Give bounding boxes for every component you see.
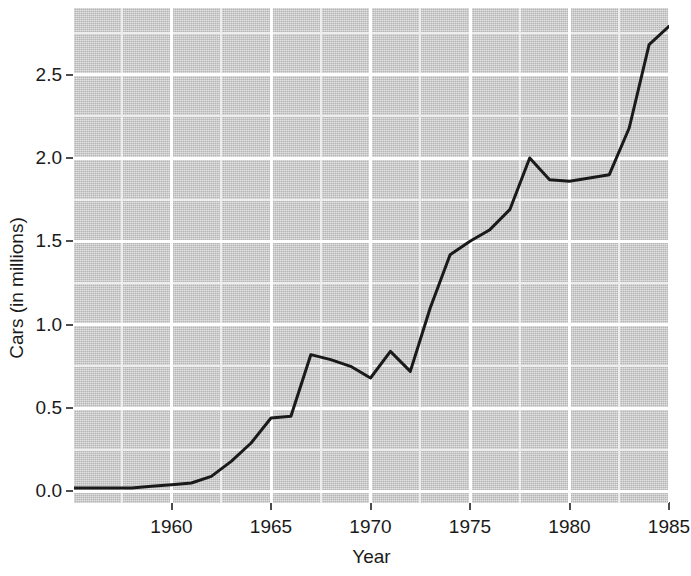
- y-axis-tick-mark: [66, 157, 73, 159]
- x-axis-tick-label: 1985: [648, 516, 690, 538]
- x-axis-tick-mark: [270, 502, 272, 510]
- y-axis-tick-mark: [66, 407, 73, 409]
- x-axis-tick-label: 1965: [250, 516, 292, 538]
- x-axis-tick-mark: [569, 502, 571, 510]
- y-axis-tick-mark: [66, 240, 73, 242]
- y-axis-tick-label: 1.0: [4, 314, 62, 336]
- y-axis-tick-label: 2.5: [4, 64, 62, 86]
- x-axis-tick-label: 1980: [548, 516, 590, 538]
- plot-panel: [74, 8, 669, 503]
- y-axis-tick-mark: [66, 490, 73, 492]
- y-axis-tick-labels: 0.00.51.01.52.02.5: [0, 0, 62, 576]
- x-axis-tick-label: 1970: [349, 516, 391, 538]
- y-axis-tick-mark: [66, 74, 73, 76]
- x-axis-title: Year: [74, 546, 669, 572]
- x-axis-tick-label: 1960: [150, 516, 192, 538]
- y-axis-tick-label: 1.5: [4, 230, 62, 252]
- x-axis-tick-mark: [469, 502, 471, 510]
- y-axis-tick-label: 0.5: [4, 397, 62, 419]
- x-axis-tick-mark: [171, 502, 173, 510]
- series-cars: [74, 8, 669, 503]
- x-axis-tick-mark: [370, 502, 372, 510]
- x-axis-tick-mark: [668, 502, 670, 510]
- y-axis-tick-mark: [66, 324, 73, 326]
- y-axis-tick-label: 2.0: [4, 147, 62, 169]
- y-axis-tick-label: 0.0: [4, 480, 62, 502]
- chart-figure: Cars (in millions) 0.00.51.01.52.02.5 Ye…: [0, 0, 691, 576]
- x-axis-tick-label: 1975: [449, 516, 491, 538]
